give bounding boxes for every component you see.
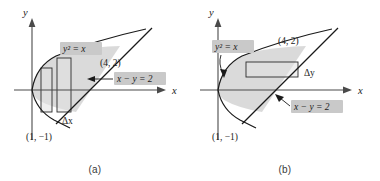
horizontal-strip-b [246, 62, 298, 77]
x-axis-arrow-b [343, 87, 352, 94]
x-axis-label-b: x [357, 85, 363, 96]
parabola-label-b: y² = x [214, 42, 238, 52]
panel-a: y x y² = x (4, 2) x − y = 2 Δx (1, −1) (… [0, 0, 190, 181]
line-label-a: x − y = 2 [116, 74, 153, 84]
panel-a-caption: (a) [0, 164, 190, 175]
x-axis-label-a: x [171, 85, 177, 96]
x-axis-arrow-a [157, 87, 166, 94]
line-label-text-a: x − y = 2 [116, 74, 153, 84]
line-label-b: x − y = 2 [293, 102, 330, 112]
panel-b-plot: y x y² = x (4, 2) Δy x − y = 2 (1, −1) [190, 0, 380, 160]
line-label-text-b: x − y = 2 [293, 102, 330, 112]
panel-b-caption: (b) [190, 164, 380, 175]
panel-b: y x y² = x (4, 2) Δy x − y = 2 (1, −1) (… [190, 0, 380, 181]
point-lower-label-a: (1, −1) [26, 132, 52, 143]
delta-y-label-b: Δy [304, 68, 315, 78]
line-label-arrow-b [275, 94, 284, 102]
figure-container: y x y² = x (4, 2) x − y = 2 Δx (1, −1) (… [0, 0, 380, 181]
y-axis-label-a: y [22, 7, 28, 18]
parabola-label-text-b: y² = x [214, 42, 238, 52]
parabola-label-a: y² = x [62, 44, 86, 54]
parabola-label-text-a: y² = x [62, 44, 86, 54]
y-axis-arrow-b [215, 18, 222, 27]
delta-x-label-a: Δx [62, 116, 73, 126]
y-axis-arrow-a [29, 18, 36, 27]
point-upper-label-a: (4, 2) [100, 58, 121, 69]
vertical-strip-2-a [57, 58, 71, 112]
point-upper-label-b: (4, 2) [278, 36, 299, 47]
panel-a-plot: y x y² = x (4, 2) x − y = 2 Δx (1, −1) [0, 0, 190, 160]
point-lower-label-b: (1, −1) [212, 132, 238, 143]
y-axis-label-b: y [208, 7, 214, 18]
